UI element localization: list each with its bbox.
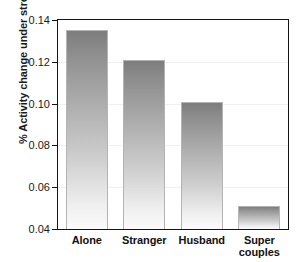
x-axis-label-line: couples — [214, 246, 304, 258]
y-tick-label: 0.14 — [29, 14, 50, 26]
y-tick-mark — [52, 187, 58, 188]
x-axis-label-line: Super — [214, 234, 304, 246]
y-tick-mark — [52, 145, 58, 146]
y-tick-label: 0.12 — [29, 56, 50, 68]
y-tick-mark — [52, 62, 58, 63]
y-tick-label: 0.08 — [29, 139, 50, 151]
bar — [181, 102, 223, 229]
y-tick-mark — [52, 104, 58, 105]
y-tick-mark — [52, 229, 58, 230]
bar-chart: % Activity change under stress 0.040.060… — [0, 0, 307, 262]
bar — [66, 30, 108, 229]
plot-inner: 0.040.060.080.100.120.14 — [58, 20, 288, 229]
bar — [238, 206, 280, 229]
bar — [123, 60, 165, 229]
x-axis-label: Supercouples — [214, 234, 304, 258]
y-tick-mark — [52, 20, 58, 21]
y-tick-label: 0.10 — [29, 98, 50, 110]
plot-area: 0.040.060.080.100.120.14 — [57, 19, 289, 230]
y-tick-label: 0.06 — [29, 181, 50, 193]
